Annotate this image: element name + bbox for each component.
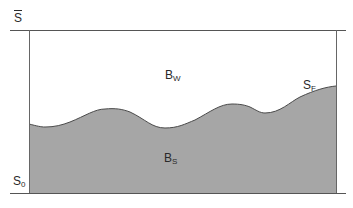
top-boundary-label: S <box>14 12 22 24</box>
upper-region-label: BW <box>165 69 181 81</box>
interface-diagram <box>0 0 353 208</box>
lower-region-label: BS <box>164 152 177 164</box>
interface-label: SF <box>303 79 316 91</box>
lower-region-fill <box>29 86 336 193</box>
bottom-boundary-label: S0 <box>13 175 25 187</box>
